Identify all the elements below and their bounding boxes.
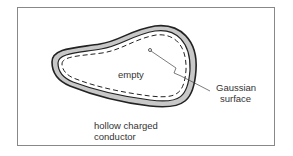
gaussian-label-line2: surface <box>220 93 251 104</box>
conductor-diagram <box>0 0 293 156</box>
conductor-label-line1: hollow charged <box>94 120 158 131</box>
interior-label: empty <box>118 69 144 80</box>
conductor-inner-surface <box>58 31 190 101</box>
gaussian-label-line1: Gaussian <box>216 82 256 93</box>
conductor-label-line2: conductor <box>94 131 136 142</box>
